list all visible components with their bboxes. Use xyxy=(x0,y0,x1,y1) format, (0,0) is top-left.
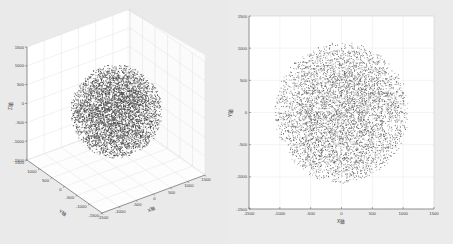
z-tick-labels: -1500-1000-500050010001500 xyxy=(13,45,24,163)
x-tick-label: 0 xyxy=(153,196,156,201)
x-tick-label-2d: 1000 xyxy=(399,211,409,216)
y-axis-label: Y轴 xyxy=(58,208,68,218)
scatter2d-figure: -1500-1000-500050010001500 -1500-1000-50… xyxy=(226,0,453,244)
x-tick-label: -500 xyxy=(133,202,142,207)
y-tick-label-2d: -500 xyxy=(239,142,248,147)
y-tick-label: -500 xyxy=(66,195,75,200)
x-axis-label-2d: X轴 xyxy=(337,218,345,225)
y-tick-label: 1000 xyxy=(27,169,37,174)
y-tick-label: -1000 xyxy=(76,204,87,209)
x-tick-label: -1000 xyxy=(115,209,126,214)
y-axis-label-2d: Y轴 xyxy=(227,109,234,117)
x-tick-label: -1500 xyxy=(98,215,109,220)
z-tick-label: 0 xyxy=(22,101,25,106)
scatter2d-plot[interactable]: -1500-1000-500050010001500 -1500-1000-50… xyxy=(226,0,453,244)
x-tick-label-2d: -500 xyxy=(306,211,315,216)
x-tick-label: 500 xyxy=(168,190,176,195)
y-tick-label-2d: 0 xyxy=(245,110,248,115)
x-tick-label-2d: -1500 xyxy=(244,211,255,216)
y-tick-label-2d: 500 xyxy=(240,78,248,83)
x-tick-label-2d: 1500 xyxy=(429,211,439,216)
y-tick-label-2d: -1000 xyxy=(236,174,247,179)
y-tick-label-2d: 1000 xyxy=(238,46,248,51)
z-tick-label: -500 xyxy=(16,120,25,125)
y-tick-label: 500 xyxy=(42,178,50,183)
z-tick-label: 500 xyxy=(17,82,25,87)
x-axis-label: X轴 xyxy=(147,205,157,214)
z-tick-label: -1000 xyxy=(13,139,24,144)
y-tick-label-2d: 1500 xyxy=(238,14,248,19)
z-axis-label: Z轴 xyxy=(7,102,14,110)
x-tick-label-2d: 0 xyxy=(340,211,343,216)
y-tick-label-2d: -1500 xyxy=(236,207,247,212)
x-tick-label: 1500 xyxy=(201,177,211,182)
x-tick-label-2d: 500 xyxy=(369,211,377,216)
y-tick-label: 0 xyxy=(59,187,62,192)
scatter3d-plot[interactable]: -1500-1000-500050010001500 -1500-1000-50… xyxy=(0,0,226,244)
scatter3d-figure: -1500-1000-500050010001500 -1500-1000-50… xyxy=(0,0,226,244)
z-tick-label: 1000 xyxy=(15,63,25,68)
x-tick-label-2d: -1000 xyxy=(274,211,285,216)
z-tick-label: 1500 xyxy=(15,45,25,50)
y-tick-label: 1500 xyxy=(15,160,25,165)
y-tick-labels-2d: -1500-1000-500050010001500 xyxy=(236,14,247,212)
x-tick-labels-2d: -1500-1000-500050010001500 xyxy=(244,211,440,216)
x-tick-label: 1000 xyxy=(184,183,194,188)
